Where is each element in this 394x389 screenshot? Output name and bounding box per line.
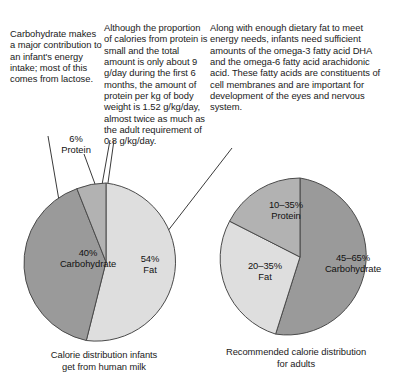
slice-label-carbohydrate-adult: 45–65% Carbohydrate <box>311 252 394 275</box>
leader-line-protein-note <box>100 140 110 196</box>
caption-recommended-adults: Recommended calorie distribution for adu… <box>198 346 394 369</box>
slice-label-protein-adult: 10–35% Protein <box>254 199 318 222</box>
slice-label-carbohydrate-infant: 40% Carbohydrate <box>40 247 136 270</box>
note-fat: Along with enough dietary fat to meet en… <box>210 22 386 113</box>
slice-label-fat-adult: 20–35% Fat <box>232 260 298 283</box>
nutrition-pie-figure: Carbohydrate makes a major contribution … <box>0 0 394 389</box>
slice-label-fat-infant: 54% Fat <box>126 253 174 276</box>
note-carbohydrate: Carbohydrate makes a major contribution … <box>10 28 102 85</box>
leader-line-fat <box>167 148 232 232</box>
note-protein: Although the proportion of calories from… <box>104 22 208 147</box>
leader-line-protein-note-2 <box>107 140 114 190</box>
leader-line-protein-callout <box>84 154 106 214</box>
caption-infant-human-milk: Calorie distribution infants get from hu… <box>14 349 194 372</box>
callout-label-protein: 6% Protein <box>52 133 100 156</box>
